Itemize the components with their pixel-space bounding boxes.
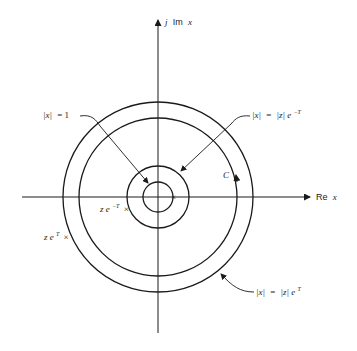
real-axis-label: Re x — [316, 192, 337, 202]
outer-circle-label: |x| = |z| e T — [256, 286, 301, 297]
contour-C-label: C — [223, 170, 230, 180]
inner-circle-label: |x| = |z| e −T — [252, 109, 302, 120]
unit-circle-label: |x| = 1 — [43, 110, 69, 120]
pole-outer-label: z e T × — [43, 228, 69, 242]
contour-direction-arrow — [236, 175, 237, 182]
pole-inner-label: z e −T × — [99, 200, 129, 214]
pole-marker-z: × — [171, 192, 176, 202]
imaginary-axis-label: j Im x — [164, 17, 192, 27]
outer-circle-leader — [221, 274, 254, 292]
contour-diagram: j Im x Re x |x| = 1 |x| = |z| e −T C |x|… — [0, 0, 357, 351]
